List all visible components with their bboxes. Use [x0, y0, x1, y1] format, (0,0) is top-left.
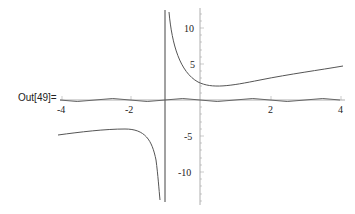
curve-upper-branch: [169, 12, 343, 86]
x-tick-label: -4: [57, 104, 65, 115]
x-tick-label: 4: [338, 104, 343, 115]
y-tick-label: 5: [190, 59, 195, 70]
x-tick-label: -2: [125, 104, 133, 115]
plot: -4 -2 2 4 10 5 -5 -10: [0, 0, 355, 214]
y-tick-label: -5: [184, 131, 192, 142]
curve-lower-branch: [58, 129, 160, 200]
x-tick-label: 2: [268, 104, 273, 115]
y-tick-label: -10: [178, 167, 191, 178]
y-tick-label: 10: [184, 23, 194, 34]
